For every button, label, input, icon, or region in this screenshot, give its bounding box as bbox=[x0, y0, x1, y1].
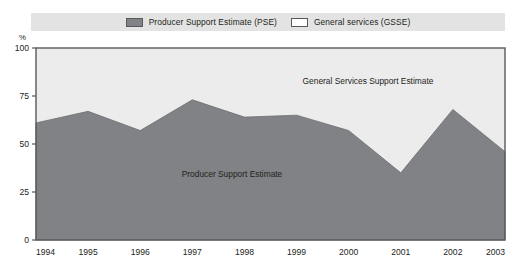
x-axis-tick-label: 1997 bbox=[183, 247, 202, 257]
x-axis-tick-label: 1996 bbox=[131, 247, 150, 257]
x-axis-tick-label: 2000 bbox=[339, 247, 358, 257]
x-axis-tick-label: 1995 bbox=[79, 247, 98, 257]
chart-page: Producer Support Estimate (PSE) General … bbox=[0, 0, 526, 268]
stacked-area-chart: 0255075100 19941995199619971998199920002… bbox=[0, 0, 526, 268]
y-axis-tick-label: 25 bbox=[19, 187, 29, 197]
x-axis: 1994199519961997199819992000200120022003 bbox=[36, 247, 505, 257]
y-axis-tick-label: 100 bbox=[15, 43, 30, 53]
annotation-gsse: General Services Support Estimate bbox=[303, 76, 434, 86]
x-axis-tick-label: 1994 bbox=[36, 247, 55, 257]
x-axis-tick-label: 1998 bbox=[235, 247, 254, 257]
annotation-pse: Producer Support Estimate bbox=[182, 169, 283, 179]
x-axis-tick-label: 2001 bbox=[391, 247, 410, 257]
x-axis-tick-label: 2002 bbox=[443, 247, 462, 257]
x-axis-tick-label: 2003 bbox=[486, 247, 505, 257]
y-axis: 0255075100 bbox=[15, 43, 36, 245]
y-axis-tick-label: 50 bbox=[19, 139, 29, 149]
plot-area: 0255075100 19941995199619971998199920002… bbox=[0, 0, 526, 268]
y-axis-tick-label: 75 bbox=[19, 91, 29, 101]
y-axis-tick-label: 0 bbox=[24, 235, 29, 245]
x-axis-tick-label: 1999 bbox=[287, 247, 306, 257]
